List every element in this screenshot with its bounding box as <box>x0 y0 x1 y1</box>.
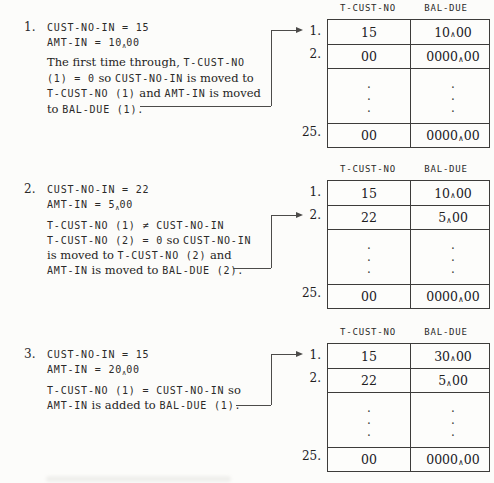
cell-bal-due: 0000∧00 <box>411 448 489 471</box>
inline-code: (1) = 0 <box>47 73 95 84</box>
inline-code: BAL-DUE (1). <box>159 400 241 411</box>
inline-code: BAL-DUE (1). <box>62 104 144 115</box>
explanation-line: T-CUST-NO (1) ≠ CUST-NO-IN <box>47 218 251 233</box>
cell-t-cust-no: 00 <box>328 448 411 471</box>
table-row: 00 0000∧00 <box>328 45 489 69</box>
bal-integer: 30 <box>434 349 450 364</box>
implied-decimal-caret: ∧ <box>450 191 456 200</box>
column-header-t-cust-no: T-CUST-NO <box>340 3 396 13</box>
table-row: 15 30∧00 <box>328 344 489 369</box>
connector-3-bottom-line <box>236 405 271 406</box>
table-grid: 15 30∧00 22 5∧00 ... ... 00 0000∧00 <box>327 343 490 472</box>
bal-decimal: 00 <box>456 25 472 40</box>
step-2-code: CUST-NO-IN = 22 AMT-IN = 5∧00 <box>47 182 149 214</box>
cell-bal-due: 30∧00 <box>411 344 489 368</box>
table-row: 00 0000∧00 <box>328 448 489 471</box>
implied-decimal-caret: ∧ <box>122 369 126 377</box>
inline-code: CUST-NO-IN = 15 <box>47 349 149 360</box>
inline-code: CUST-NO-IN <box>183 235 251 246</box>
cell-t-cust-no: 00 <box>328 285 411 308</box>
inline-code: 00 <box>119 199 133 210</box>
table-grid: 15 10∧00 22 5∧00 ... ... 00 0000∧00 <box>327 180 490 309</box>
column-header-bal-due: BAL-DUE <box>424 164 468 174</box>
dot: . <box>451 244 455 246</box>
dot: . <box>367 407 371 409</box>
step-2-explanation: T-CUST-NO (1) ≠ CUST-NO-IN T-CUST-NO (2)… <box>47 218 251 278</box>
code-line: AMT-IN = 20∧00 <box>47 362 149 379</box>
bal-integer: 5 <box>438 210 446 225</box>
row-label: 2. <box>285 206 321 224</box>
vertical-ellipsis: ... <box>328 393 411 447</box>
dot: . <box>367 244 371 246</box>
table-row: 00 0000∧00 <box>328 285 489 308</box>
code-line: AMT-IN = 5∧00 <box>47 197 149 214</box>
table-row-ellipsis: ... ... <box>328 393 489 448</box>
inline-code: T-CUST-NO <box>183 57 244 68</box>
dot: . <box>367 419 371 421</box>
vertical-ellipsis: ... <box>328 230 411 284</box>
table-row-ellipsis: ... ... <box>328 69 489 124</box>
dot: . <box>451 431 455 433</box>
row-label: 1. <box>285 346 321 364</box>
row-label: 1. <box>285 22 321 40</box>
inline-code: 00 <box>126 37 140 48</box>
explanation-line: AMT-IN is moved to BAL-DUE (2). <box>47 263 251 278</box>
bal-decimal: 00 <box>464 452 480 467</box>
cell-t-cust-no: 15 <box>328 344 411 368</box>
dot: . <box>451 107 455 109</box>
step-2-number: 2. <box>24 182 35 197</box>
prose-text: and <box>136 86 165 100</box>
column-header-bal-due: BAL-DUE <box>424 327 468 337</box>
table-row: 15 10∧00 <box>328 181 489 206</box>
explanation-line: (1) = 0 so CUST-NO-IN is moved to <box>47 71 261 87</box>
code-line: CUST-NO-IN = 15 <box>47 20 149 35</box>
table-row: 22 5∧00 <box>328 206 489 230</box>
inline-code: T-CUST-NO (2) = 0 <box>47 235 163 246</box>
inline-code: AMT-IN <box>165 88 206 99</box>
bal-integer: 10 <box>434 186 450 201</box>
bal-decimal: 00 <box>456 349 472 364</box>
row-label: 25. <box>285 123 321 141</box>
row-label: 1. <box>285 183 321 201</box>
dot: . <box>451 268 455 270</box>
table-loading-figure: 1. CUST-NO-IN = 15 AMT-IN = 10∧00 The fi… <box>0 0 494 483</box>
code-line: CUST-NO-IN = 15 <box>47 347 149 362</box>
inline-code: AMT-IN = 10 <box>47 37 122 48</box>
vertical-ellipsis: ... <box>328 69 411 123</box>
table-2: T-CUST-NO BAL-DUE 1. 2. 25. 15 10∧00 22 … <box>285 180 491 312</box>
table-1: T-CUST-NO BAL-DUE 1. 2. 25. 15 10∧00 00 … <box>285 19 491 151</box>
dot: . <box>451 419 455 421</box>
cell-t-cust-no: 22 <box>328 369 411 392</box>
vertical-ellipsis: ... <box>411 393 489 447</box>
cell-t-cust-no: 00 <box>328 45 411 68</box>
implied-decimal-caret: ∧ <box>122 42 126 50</box>
row-label: 2. <box>285 369 321 387</box>
dot: . <box>367 95 371 97</box>
bal-integer: 0000 <box>426 128 458 143</box>
bal-decimal: 00 <box>464 49 480 64</box>
explanation-line: T-CUST-NO (1) = CUST-NO-IN so <box>47 383 241 398</box>
explanation-line: T-CUST-NO (1) and AMT-IN is moved <box>47 86 261 102</box>
explanation-line: The first time through, T-CUST-NO <box>47 55 261 71</box>
implied-decimal-caret: ∧ <box>458 458 464 467</box>
implied-decimal-caret: ∧ <box>446 216 452 225</box>
bal-decimal: 00 <box>456 186 472 201</box>
bal-decimal: 00 <box>464 289 480 304</box>
connector-1-bottom-line <box>140 106 271 107</box>
column-header-t-cust-no: T-CUST-NO <box>340 327 396 337</box>
table-row: 00 0000∧00 <box>328 124 489 147</box>
bal-decimal: 00 <box>452 210 468 225</box>
prose-text: is moved <box>206 86 261 100</box>
cell-t-cust-no: 15 <box>328 181 411 205</box>
dot: . <box>367 256 371 258</box>
prose-text: to <box>47 102 62 116</box>
prose-text: is moved to <box>183 71 254 85</box>
inline-code: 00 <box>126 364 140 375</box>
connector-2-bottom-line <box>233 268 271 269</box>
row-label: 25. <box>285 284 321 302</box>
bal-integer: 5 <box>438 373 446 388</box>
cell-t-cust-no: 22 <box>328 206 411 229</box>
dot: . <box>367 431 371 433</box>
table-row: 22 5∧00 <box>328 369 489 393</box>
dot: . <box>451 83 455 85</box>
